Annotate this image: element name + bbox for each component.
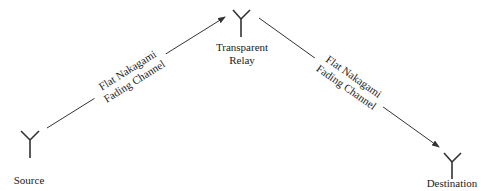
destination-label: Destination (427, 177, 478, 189)
destination-node: Destination (427, 153, 478, 189)
link-source-to-relay: Flat Nakagami Fading Channel (47, 17, 225, 128)
relay-system-diagram: Source Transparent Relay Destination Fla… (0, 0, 489, 191)
relay-label-line1: Transparent (216, 41, 268, 53)
source-node: Source (14, 131, 45, 186)
antenna-icon (233, 10, 250, 37)
source-label: Source (14, 174, 45, 186)
antenna-icon (444, 153, 461, 179)
antenna-icon (21, 131, 39, 158)
relay-label-line2: Relay (229, 54, 255, 66)
link-relay-to-destination: Flat Nakagami Fading Channel (259, 18, 439, 147)
